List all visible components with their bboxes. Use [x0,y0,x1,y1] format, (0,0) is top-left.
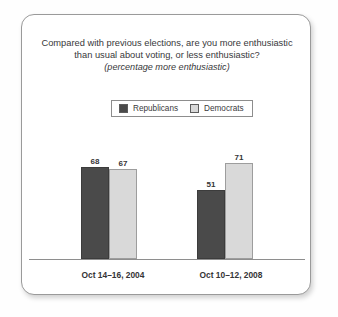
bar-2004-democrats [109,169,137,259]
x-axis-label-2008: Oct 10–12, 2008 [156,270,306,280]
bar-2004-republicans [81,167,109,259]
chart-subtitle: (percentage more enthusiastic) [34,62,300,72]
legend-label-republicans: Republicans [133,104,178,113]
legend-label-democrats: Democrats [204,104,244,113]
bar-wrap-2004-republicans: 68 [81,140,109,259]
bar-wrap-2004-democrats: 67 [109,140,137,259]
bar-group-2008-bars: 51 71 [197,140,253,259]
bar-group-2004-bars: 68 67 [81,140,137,259]
bar-2008-republicans [197,190,225,259]
legend-entry-democrats: Democrats [190,104,244,113]
bar-value-2004-democrats: 67 [103,159,143,168]
chart-screenshot: Compared with previous elections, are yo… [0,0,338,317]
chart-title: Compared with previous elections, are yo… [34,37,300,62]
x-axis-line [29,259,305,260]
bar-2008-democrats [225,163,253,259]
legend-swatch-republicans [119,104,128,113]
chart-card: Compared with previous elections, are yo… [21,14,311,295]
bar-wrap-2008-democrats: 71 [225,140,253,259]
chart-legend: Republicans Democrats [111,100,253,117]
legend-swatch-democrats [190,104,199,113]
plot-area: 68 67 51 71 [29,140,305,286]
legend-entry-republicans: Republicans [119,104,178,113]
bar-value-2008-democrats: 71 [219,153,259,162]
